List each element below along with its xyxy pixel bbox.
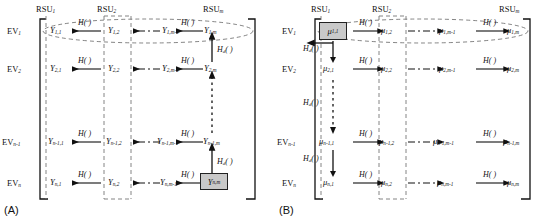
panel-b-node-1-m: μ1,m [507,26,519,35]
panel-b-row-header-ev-n: EVn [282,179,296,189]
panel-a-node-1-m: Y1,m [204,26,217,35]
panel-a-header-rsu-2: RSU2 [97,5,116,15]
panel-b-header-rsu-2: RSU2 [372,5,391,15]
panel-b-hd-label-bottom: Hd( ) [303,155,319,164]
panel-a-h-label-r4-c1: H( ) [78,171,91,179]
panel-a-row-header-ev-2: EV2 [7,65,21,75]
panel-a-h-label-r1-c1: H( ) [78,19,91,27]
panel-b-h-label-r2-c1: H( ) [359,57,372,65]
panel-a-node-n-1-2: Yn-1,2 [106,137,122,146]
panel-b-h-label-r3-c1: H( ) [359,130,372,138]
panel-b-caption: (B) [279,205,294,216]
panel-a-highlighted-node-label: Yn,m [201,174,227,189]
panel-b-node-n-2: μn,2 [381,178,392,187]
panel-b-hd-label-mid: Hd( ) [303,99,319,108]
panel-b-node-n-1-m: μn-1,m [503,137,519,146]
panel-b-hd-label-top: Hd( ) [303,45,319,54]
panel-b-highlighted-node[interactable]: μ1,1 [319,22,347,40]
panel-a-node-2-m-1: Y2,m-1 [162,64,179,73]
panel-b-node-n-1: μn,1 [323,178,334,187]
panel-b-node-2-m-1: μ2,m-1 [439,64,455,73]
panel-a-node-2-2: Y2,2 [108,64,119,73]
panel-b-header-rsu-1: RSU1 [311,5,330,15]
panel-b-header-rsu-m: RSUm [499,5,519,15]
panel-b-node-n-1-1: μn-1,1 [319,137,334,146]
panel-a-node-n-2: Yn,2 [108,178,119,187]
panel-a-node-n-m-1: Yn,m-1 [160,178,177,187]
panel-b-node-2-1: μ2,1 [323,64,334,73]
panel-a-row-header-ev-1: EV1 [7,27,21,37]
panel-a-node-1-m-1: Y1,m-1 [162,26,179,35]
panel-a-row-header-ev-n: EVn [7,179,21,189]
panel-b: RSU1 RSU2 RSUm EV1 EV2 EVn-1 EVn μ1,1 [275,0,550,224]
panel-b-row-header-ev-2: EV2 [282,65,296,75]
panel-b-node-2-m: μ2,m [507,64,519,73]
panel-b-node-n-m-1: μn,m-1 [437,178,453,187]
panel-a-h-label-r3-c3: H( ) [181,130,194,138]
panel-b-node-n-1-m-1: μn-1,m-1 [433,137,454,146]
panel-b-h-label-r1-c1: H( ) [359,19,372,27]
panel-a-node-1-1: Y1,1 [50,26,61,35]
panel-a-node-n-1: Yn,1 [50,178,61,187]
panel-a-header-rsu-m: RSUm [203,5,223,15]
panel-b-node-1-2: μ1,2 [381,26,392,35]
panel-b-h-label-r3-c3: H( ) [483,130,496,138]
panel-a-hd-label-top: Hd( ) [217,46,233,55]
panel-a-node-n-1-m: Yn-1,m [203,137,220,146]
panel-a-header-rsu-1: RSU1 [36,5,55,15]
panel-b-node-n-m: μn,m [507,178,519,187]
panel-b-h-label-r4-c3: H( ) [483,171,496,179]
panel-a-h-label-r2-c1: H( ) [78,57,91,65]
panel-b-highlighted-node-label: μ1,1 [320,23,346,39]
panel-a-row-header-ev-n-1: EVn-1 [2,138,20,148]
panel-b-row-header-ev-1: EV1 [282,27,296,37]
panel-a-h-label-r2-c3: H( ) [181,57,194,65]
panel-a-node-n-1-1: Yn-1,1 [48,137,64,146]
panel-a-node-2-m: Y2,m [204,64,217,73]
panel-b-row-header-ev-n-1: EVn-1 [277,138,295,148]
panel-b-h-label-r2-c3: H( ) [483,57,496,65]
panel-a-highlighted-node[interactable]: Yn,m [200,173,228,190]
panel-a-caption: (A) [4,205,19,216]
panel-a-node-2-1: Y2,1 [50,64,61,73]
panel-b-node-n-1-2: μn-1,2 [379,137,394,146]
panel-a-h-label-r4-c3: H( ) [181,171,194,179]
panel-a-hd-label-bottom: Hd( ) [217,158,233,167]
figure-root: RSU1 RSU2 RSUm EV1 EV2 EVn-1 EVn Y1,1 Y1… [0,0,550,224]
panel-a-h-label-r1-c3: H( ) [181,19,194,27]
panel-a-node-n-1-m-1: Yn-1,m-1 [157,137,178,146]
panel-a-node-1-2: Y1,2 [108,26,119,35]
panel-b-node-1-m-1: μ1,m-1 [439,26,455,35]
panel-a: RSU1 RSU2 RSUm EV1 EV2 EVn-1 EVn Y1,1 Y1… [0,0,275,224]
panel-b-h-label-r1-c3: H( ) [483,19,496,27]
panel-b-h-label-r4-c1: H( ) [359,171,372,179]
panel-a-h-label-r3-c1: H( ) [78,130,91,138]
panel-b-node-2-2: μ2,2 [381,64,392,73]
